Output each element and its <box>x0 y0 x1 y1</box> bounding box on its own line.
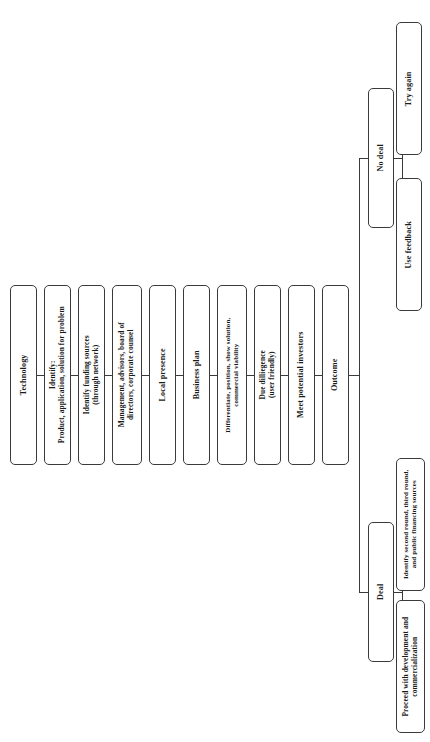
node-label: Identify: Product, application, solution… <box>49 307 66 444</box>
node-due-diligence: Due dilliegence (user friendly) <box>254 285 281 465</box>
node-identify-funding-sources: Identify funding sources (through networ… <box>78 285 105 465</box>
node-local-presence: Local presence <box>149 285 176 465</box>
flowchart-canvas: Technology Identify: Product, applicatio… <box>0 0 430 742</box>
node-deal: Deal <box>368 522 394 662</box>
node-label: Try again <box>404 71 414 106</box>
node-label: Differentiate, position, show solution, … <box>224 318 241 433</box>
connector-business-differentiate <box>210 375 217 376</box>
node-label: Use feedback <box>404 221 414 268</box>
node-label: Outcome <box>331 359 341 392</box>
node-label: Due dilliegence (user friendly) <box>259 350 276 399</box>
node-label: Meet potential investors <box>297 332 307 419</box>
node-label: Identify funding sources (through networ… <box>83 335 100 414</box>
connector-management-local <box>142 375 149 376</box>
node-technology: Technology <box>10 285 37 465</box>
connector-technology-identify <box>37 375 44 376</box>
connector-local-business-plan <box>176 375 183 376</box>
node-label: Identify second round, third round, and … <box>402 470 419 579</box>
connector-no-deal-split <box>394 158 402 159</box>
node-outcome: Outcome <box>322 285 349 465</box>
connector-funding-management <box>105 375 112 376</box>
node-label: Local presence <box>158 348 168 401</box>
node-no-deal: No deal <box>368 88 394 228</box>
node-proceed-development: Proceed with development and commerciali… <box>396 600 425 733</box>
connector-outcome-split <box>349 375 359 376</box>
node-label: Deal <box>376 584 386 600</box>
node-business-plan: Business plan <box>183 285 210 465</box>
connector-trunk-no-deal <box>359 158 368 159</box>
node-identify-second-round: Identify second round, third round, and … <box>396 458 425 591</box>
node-label: Proceed with development and commerciali… <box>402 617 419 717</box>
node-identify: Identify: Product, application, solution… <box>44 285 71 465</box>
node-differentiate: Differentiate, position, show solution, … <box>217 285 247 465</box>
node-label: Management, advisors, board of directors… <box>118 322 135 427</box>
node-management: Management, advisors, board of directors… <box>112 285 142 465</box>
connector-diligence-meet <box>281 375 288 376</box>
connector-identify-funding <box>71 375 78 376</box>
node-label: Business plan <box>192 351 202 400</box>
node-use-feedback: Use feedback <box>396 178 422 311</box>
connector-split-trunk <box>359 158 360 592</box>
connector-trunk-deal <box>359 592 368 593</box>
node-label: No deal <box>376 144 386 171</box>
connector-deal-split <box>394 592 402 593</box>
node-meet-potential-investors: Meet potential investors <box>288 285 315 465</box>
node-try-again: Try again <box>396 22 422 155</box>
connector-differentiate-diligence <box>247 375 254 376</box>
node-label: Technology <box>19 355 29 396</box>
connector-meet-outcome <box>315 375 322 376</box>
